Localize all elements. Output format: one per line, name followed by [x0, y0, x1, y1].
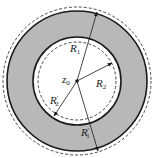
radius-R2-arrow: [77, 63, 112, 81]
label-R1-prime: R′1: [80, 126, 90, 140]
label-R2-prime: R′2: [49, 94, 59, 108]
annulus-diagram: z0 R1 R2 R′2 R′1: [0, 0, 156, 158]
label-R2: R2: [95, 77, 107, 91]
center-label: z0: [61, 73, 70, 87]
label-R1: R1: [69, 42, 81, 56]
center-point: [75, 79, 79, 83]
